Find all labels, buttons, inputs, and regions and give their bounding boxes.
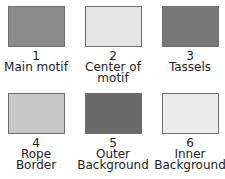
swatch-item-1: 1 Main motif	[0, 6, 74, 73]
swatch-label: Tassels	[152, 62, 225, 73]
color-swatch-rope-border	[8, 93, 65, 134]
color-swatch-outer-background	[85, 93, 142, 134]
swatch-item-5: 5 Outer Background	[75, 93, 151, 171]
swatch-item-6: 6 Inner Background	[152, 93, 225, 171]
swatch-item-3: 3 Tassels	[152, 6, 225, 73]
swatch-item-4: 4 Rope Border	[0, 93, 74, 171]
color-swatch-tassels	[162, 6, 219, 47]
color-swatch-main-motif	[8, 6, 65, 47]
color-swatch-center-of-motif	[85, 6, 142, 47]
swatch-label-line2: Border	[0, 160, 74, 171]
color-swatch-inner-background	[162, 93, 219, 134]
swatch-label: Main motif	[0, 62, 74, 73]
swatch-item-2: 2 Center of motif	[75, 6, 151, 84]
swatch-label-line2: Background	[152, 160, 225, 171]
swatch-label-line2: Background	[75, 160, 151, 171]
swatch-label-line2: motif	[75, 73, 151, 84]
